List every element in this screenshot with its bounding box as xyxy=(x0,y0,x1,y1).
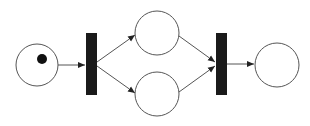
arc-p3-t2 xyxy=(179,66,215,92)
petri-net-diagram xyxy=(0,0,310,126)
transition-t1 xyxy=(86,33,97,95)
transition-t2 xyxy=(216,33,227,95)
place-p2 xyxy=(135,11,179,55)
place-p4 xyxy=(255,43,299,87)
arc-t1-p3 xyxy=(97,66,135,93)
place-p3 xyxy=(135,72,179,116)
arc-t1-p2 xyxy=(97,35,135,62)
token-icon xyxy=(37,54,47,64)
arc-p2-t2 xyxy=(179,36,215,62)
place-p1 xyxy=(16,44,58,86)
